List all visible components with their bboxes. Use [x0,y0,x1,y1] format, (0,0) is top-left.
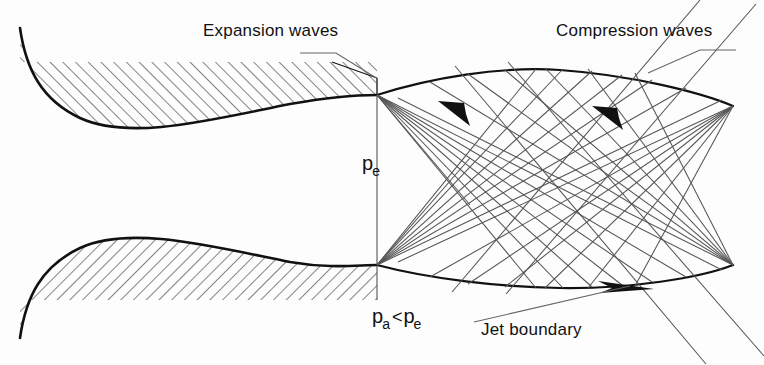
nozzle-jet-diagram: Expansion waves Compression waves Jet bo… [0,0,764,365]
exit-pressure-subscript-2: e [414,316,422,332]
leader-compression-waves [648,50,736,73]
label-jet-boundary: Jet boundary [481,320,582,340]
leader-jet-boundary [474,286,630,322]
ambient-pressure-subscript: a [382,316,390,332]
jet-boundary [377,69,733,288]
upper-nozzle-wall [20,28,377,128]
lower-wall-hatch-fill [20,238,377,338]
label-expansion-waves: Expansion waves [203,21,338,41]
symbol-pressure-relation: pa<pe [372,305,422,328]
less-than-operator: < [391,307,404,327]
label-compression-waves: Compression waves [556,21,712,41]
lower-nozzle-wall [20,238,377,338]
expansion-direction-arrow [438,101,470,126]
upper-wall-hatch-fill [20,28,377,128]
symbol-exit-pressure: pe [362,152,381,175]
exit-pressure-base-2: p [403,305,414,327]
compression-fan-lower [398,68,733,265]
exit-pressure-subscript: e [372,163,380,179]
jet-boundary-upper [377,69,733,106]
